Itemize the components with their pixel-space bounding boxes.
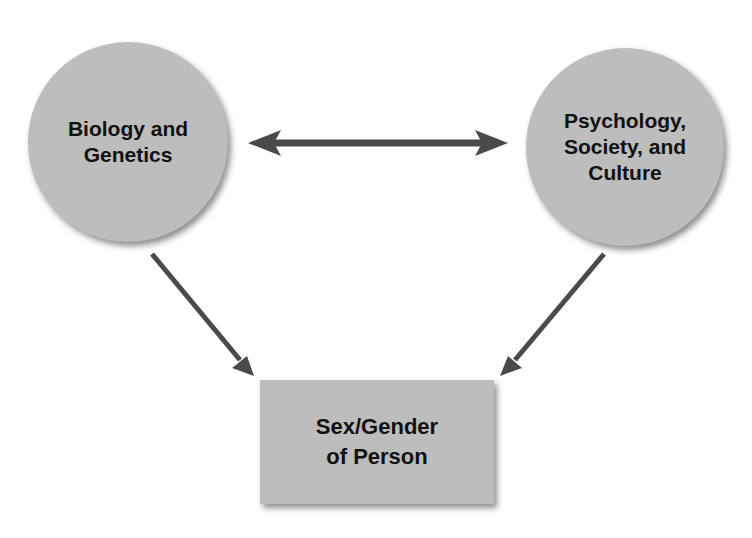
biology-to-outcome-arrow <box>152 254 254 376</box>
psychology-society-culture-node: Psychology, Society, and Culture <box>526 48 724 246</box>
node-label-line: Culture <box>564 160 686 186</box>
node-label-line: Psychology, <box>564 108 686 134</box>
sex-gender-of-person-node: Sex/Gender of Person <box>260 380 494 504</box>
node-label-line: of Person <box>316 442 438 472</box>
psychology-to-outcome-arrow <box>500 254 604 376</box>
node-label-line: Society, and <box>564 134 686 160</box>
biology-genetics-node: Biology and Genetics <box>28 42 228 242</box>
node-label-line: Genetics <box>68 142 188 168</box>
node-label-line: Biology and <box>68 116 188 142</box>
bidirectional-arrow <box>248 130 508 156</box>
node-label-line: Sex/Gender <box>316 412 438 442</box>
